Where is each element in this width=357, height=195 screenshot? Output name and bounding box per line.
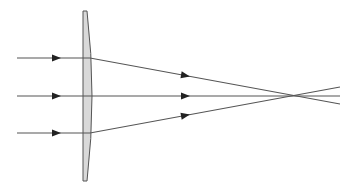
light-rays: [17, 55, 340, 137]
arrow-head-icon: [52, 130, 61, 137]
arrow-head-icon: [52, 55, 61, 62]
ray-lower: [17, 87, 340, 137]
arrow-head-icon: [180, 71, 190, 80]
arrow-head-icon: [180, 111, 190, 120]
arrow-head-icon: [52, 93, 61, 100]
ray-upper: [17, 55, 340, 105]
arrow-head-icon: [181, 93, 190, 100]
lens-diagram: [0, 0, 357, 195]
